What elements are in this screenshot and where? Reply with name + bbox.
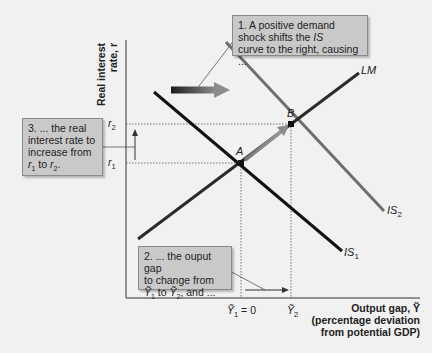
- y-tick-r1: r1: [108, 156, 116, 171]
- point-b-label: B: [287, 107, 294, 119]
- x-axis-title: Output gap, Ỹ (percentage deviation from…: [311, 302, 420, 338]
- x-axis-title-line-2: (percentage deviation: [311, 314, 420, 326]
- y-axis-title: Real interest rate, r: [95, 43, 119, 106]
- point-a-label: A: [236, 145, 243, 157]
- callout-2: 2. ... the ouput gap to change from Ỹ1 t…: [138, 246, 232, 290]
- is2-label: IS2: [387, 204, 402, 219]
- callout-1-line-3: curve to the right, causing ...: [238, 43, 362, 67]
- callout-3-line-1: 3. ... the real: [28, 122, 97, 134]
- y-axis-title-line-1: Real interest: [95, 43, 107, 106]
- callout-1: 1. A positive demand shock shifts the IS…: [232, 15, 368, 56]
- callout-1-line-1: 1. A positive demand: [238, 19, 362, 31]
- point-a-marker: [238, 160, 244, 166]
- point-b-marker: [288, 121, 294, 127]
- x-tick-y1: Ỹ1 = 0: [227, 304, 256, 319]
- x-tick-y2: Ỹ2: [287, 304, 298, 319]
- callout-3: 3. ... the real interest rate to increas…: [22, 118, 103, 176]
- callout-2-line-2: to change from: [144, 274, 226, 286]
- callout-2-line-3: Ỹ1 to Ỹ2, and ...: [144, 286, 226, 303]
- y-axis-title-line-2: rate, r: [107, 43, 119, 106]
- is1-curve: [154, 92, 342, 251]
- callout-1-line-2: shock shifts the IS: [238, 31, 362, 43]
- callout-3-line-2: interest rate to: [28, 134, 97, 146]
- output-gap-arrow-head: [282, 287, 289, 293]
- callout-2-line-1: 2. ... the ouput gap: [144, 250, 226, 274]
- lm-label: LM: [361, 64, 376, 76]
- shift-arrow-shaft: [171, 87, 215, 94]
- is1-label: IS1: [344, 246, 359, 261]
- callout-2-leader: [228, 270, 265, 290]
- x-axis-title-line-1: Output gap, Ỹ: [311, 302, 420, 314]
- x-axis-title-line-3: from potential GDP): [311, 326, 420, 338]
- diagram-canvas: LM IS1 IS2 A B r2 r1 Ỹ1 = 0 Ỹ2 Real inte…: [0, 0, 432, 353]
- y-tick-r2: r2: [108, 117, 116, 132]
- a-to-b-arrow-shaft: [245, 131, 282, 160]
- callout-3-line-3: increase from: [28, 146, 97, 158]
- callout-3-line-4: r1 to r2.: [28, 158, 97, 175]
- r-increase-arrow-head: [132, 129, 138, 136]
- shift-arrow-head: [214, 82, 230, 98]
